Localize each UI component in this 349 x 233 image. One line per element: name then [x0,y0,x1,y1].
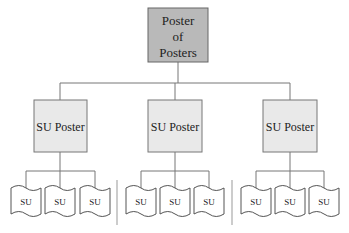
svg-text:SU: SU [54,197,66,207]
root-label-line-2: of [173,29,185,44]
leaf-group-2: SU SU SU [126,186,224,217]
child-label: SU Poster [151,120,199,134]
svg-text:SU: SU [169,197,181,207]
leaf-document-icon: SU [45,186,75,217]
svg-text:SU: SU [284,197,296,207]
child-node-3: SU Poster [263,100,317,152]
root-label-line-3: Posters [159,45,197,60]
svg-text:SU: SU [135,197,147,207]
leaf-document-icon: SU [309,186,339,217]
leaf-document-icon: SU [11,186,41,217]
leaf-document-icon: SU [275,186,305,217]
svg-text:SU: SU [203,197,215,207]
leaf-document-icon: SU [194,186,224,217]
child-label: SU Poster [266,120,314,134]
child-node-1: SU Poster [34,100,87,152]
root-label-line-1: Poster [162,13,195,28]
child-node-2: SU Poster [148,100,202,152]
leaf-document-icon: SU [126,186,156,217]
svg-text:SU: SU [250,197,262,207]
leaf-group-3: SU SU SU [241,186,339,217]
leaf-document-icon: SU [241,186,271,217]
leaf-document-icon: SU [80,186,110,217]
root-node: Poster of Posters [148,8,208,62]
leaf-document-icon: SU [160,186,190,217]
hierarchy-diagram: Poster of Posters SU Poster SU Poster SU… [0,0,349,233]
svg-text:SU: SU [89,197,101,207]
svg-text:SU: SU [318,197,330,207]
svg-text:SU: SU [20,197,32,207]
leaf-group-1: SU SU SU [11,186,110,217]
child-label: SU Poster [36,120,84,134]
